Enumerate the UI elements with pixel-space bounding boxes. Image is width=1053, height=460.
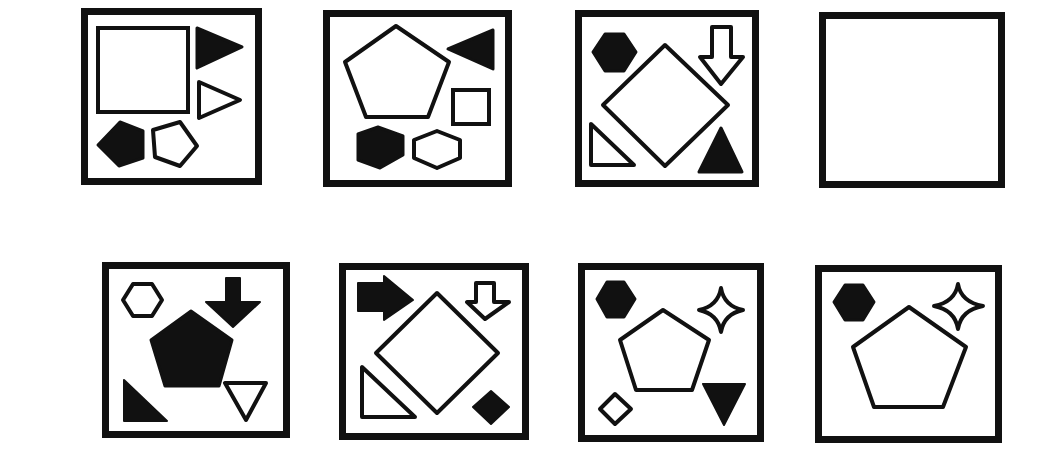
- panel-2: [327, 14, 509, 184]
- outline-hexagon-icon: [123, 284, 162, 316]
- outline-square-icon: [98, 28, 188, 112]
- panel-4: [823, 16, 1002, 185]
- option-d[interactable]: [819, 269, 999, 440]
- outline-hexagon-icon: [414, 131, 460, 168]
- panel-3: [579, 14, 756, 184]
- panel-1: [85, 12, 259, 182]
- option-a[interactable]: [106, 266, 287, 435]
- option-b[interactable]: [343, 267, 526, 437]
- panel-frame: [823, 16, 1002, 185]
- outline-square-icon: [453, 90, 489, 124]
- analogy-puzzle: [0, 0, 1053, 460]
- option-c[interactable]: [582, 267, 761, 439]
